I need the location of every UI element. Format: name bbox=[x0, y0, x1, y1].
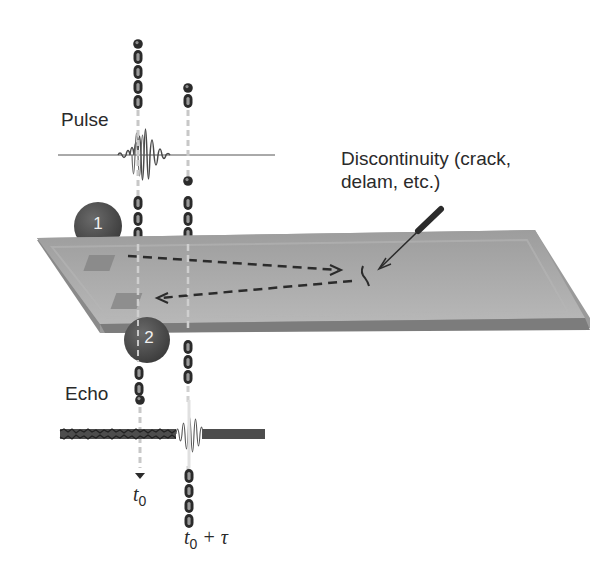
t0-subscript: 0 bbox=[139, 493, 147, 509]
time-t0-plus-tau-label: t0 + τ bbox=[184, 526, 228, 552]
transducer-2-number: 2 bbox=[134, 328, 164, 348]
beam-chain-2-upper bbox=[183, 83, 193, 241]
plus-tau: + τ bbox=[197, 526, 228, 548]
transducer-1-number: 1 bbox=[83, 214, 113, 234]
echo-label: Echo bbox=[65, 383, 108, 405]
pulse-label: Pulse bbox=[61, 109, 109, 131]
discontinuity-label-line-2: delam, etc.) bbox=[341, 171, 440, 193]
ultrasonic-pulse-echo-diagram bbox=[0, 0, 603, 567]
pulse-waveform bbox=[58, 129, 275, 180]
echo-waveform bbox=[60, 400, 265, 468]
discontinuity-label-line-1: Discontinuity (crack, bbox=[341, 148, 511, 170]
time-t0-label: t0 bbox=[133, 483, 146, 509]
test-plate bbox=[37, 230, 590, 333]
